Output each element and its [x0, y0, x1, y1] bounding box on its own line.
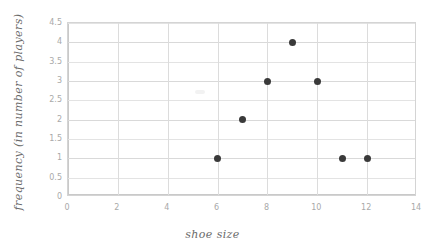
y-tick-label: 0 [32, 192, 62, 201]
x-tick-label: 12 [351, 203, 381, 212]
y-axis-title: frequency (in number of players) [12, 2, 25, 222]
y-tick-label: 4 [32, 37, 62, 46]
y-tick-label: 2 [32, 114, 62, 123]
x-tick-label: 14 [401, 203, 425, 212]
y-tick-label: 0.5 [32, 172, 62, 181]
y-tick-label: 3.5 [32, 56, 62, 65]
x-tick-label: 8 [251, 203, 281, 212]
x-tick-label: 0 [52, 203, 82, 212]
y-tick-label: 3 [32, 76, 62, 85]
y-tick-label: 4.5 [32, 18, 62, 27]
x-tick-label: 2 [102, 203, 132, 212]
y-tick-label: 1.5 [32, 134, 62, 143]
x-tick-label: 6 [202, 203, 232, 212]
y-tick-label: 2.5 [32, 95, 62, 104]
x-tick-label: 10 [301, 203, 331, 212]
y-tick-label: 1 [32, 153, 62, 162]
x-axis-title: shoe size [0, 228, 425, 241]
scatter-chart: 00.511.522.533.544.502468101214 shoe siz… [0, 0, 425, 249]
x-tick-label: 4 [152, 203, 182, 212]
tick-label-layer: 00.511.522.533.544.502468101214 [0, 0, 425, 249]
